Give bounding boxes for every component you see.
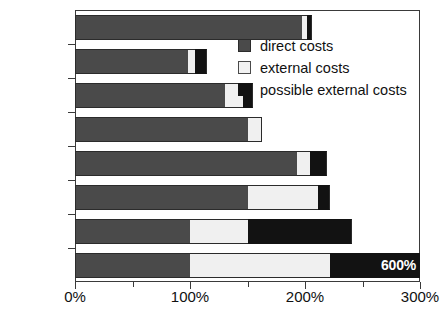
bar-segment-fission-direct-costs xyxy=(75,49,188,74)
bar-segment-hydro-direct-costs xyxy=(75,117,248,142)
x-axis-ticklabel-3: 300% xyxy=(375,288,444,305)
energy-cost-stacked-bar-chart: FusionFissionWindHydroSolarBiomassGasCoa… xyxy=(0,0,444,315)
x-axis-minor-tick xyxy=(133,282,134,287)
y-axis-tick xyxy=(68,180,75,181)
stacked-bar-wind xyxy=(75,83,253,108)
bar-segment-coal-direct-costs xyxy=(75,253,190,278)
bar-segment-fission-external-costs xyxy=(188,49,195,74)
y-axis-tick xyxy=(68,78,75,79)
bar-segment-solar-external-costs xyxy=(297,151,310,176)
legend-item-external-costs: external costs xyxy=(238,58,407,77)
bar-segment-gas-possible-external-costs xyxy=(248,219,353,244)
x-axis-minor-tick xyxy=(363,282,364,287)
x-axis-ticklabel-2: 200% xyxy=(260,288,350,305)
bar-row-gas: Gas xyxy=(75,214,420,248)
external-costs-swatch xyxy=(238,61,251,74)
y-axis-tick xyxy=(68,112,75,113)
x-axis-ticklabel-1: 100% xyxy=(145,288,235,305)
bar-segment-solar-possible-external-costs xyxy=(310,151,327,176)
legend-item-possible-external-costs: possible external costs xyxy=(238,80,407,99)
stacked-bar-fission xyxy=(75,49,207,74)
y-axis-tick xyxy=(68,248,75,249)
bar-segment-biomass-direct-costs xyxy=(75,185,248,210)
stacked-bar-gas xyxy=(75,219,352,244)
bar-row-solar: Solar xyxy=(75,146,420,180)
bar-segment-coal-external-costs xyxy=(190,253,330,278)
legend-label-external-costs: external costs xyxy=(260,60,349,76)
y-axis-tick xyxy=(68,44,75,45)
bar-segment-gas-direct-costs xyxy=(75,219,190,244)
x-axis-ticklabel-0: 0% xyxy=(30,288,120,305)
legend-label-direct-costs: direct costs xyxy=(260,38,333,54)
bar-row-coal: Coal600% xyxy=(75,248,420,282)
legend-item-direct-costs: direct costs xyxy=(238,36,407,55)
possible-external-costs-swatch xyxy=(238,83,251,96)
stacked-bar-solar xyxy=(75,151,327,176)
chart-legend: direct costs external costs possible ext… xyxy=(238,36,407,99)
legend-label-possible-external-costs: possible external costs xyxy=(260,82,407,98)
bar-segment-fission-possible-external-costs xyxy=(195,49,208,74)
stacked-bar-hydro xyxy=(75,117,262,142)
bar-segment-hydro-external-costs xyxy=(248,117,263,142)
bar-segment-biomass-possible-external-costs xyxy=(318,185,331,210)
bar-segment-solar-direct-costs xyxy=(75,151,297,176)
bar-segment-wind-direct-costs xyxy=(75,83,225,108)
bar-value-label-coal: 600% xyxy=(381,253,416,278)
stacked-bar-biomass xyxy=(75,185,330,210)
y-axis-tick xyxy=(68,146,75,147)
bar-segment-gas-external-costs xyxy=(190,219,248,244)
bar-row-biomass: Biomass xyxy=(75,180,420,214)
direct-costs-swatch xyxy=(238,39,251,52)
bar-row-hydro: Hydro xyxy=(75,112,420,146)
bar-segment-biomass-external-costs xyxy=(248,185,318,210)
stacked-bar-coal: 600% xyxy=(75,253,420,278)
x-axis-minor-tick xyxy=(248,282,249,287)
y-axis-tick xyxy=(68,214,75,215)
